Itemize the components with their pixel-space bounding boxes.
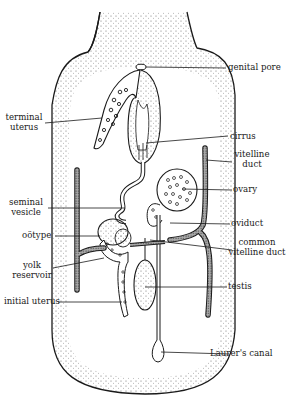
label-yolk-reservoir: yolk reservoir — [10, 261, 54, 280]
label-terminal-uterus: terminal uterus — [2, 113, 46, 132]
label-oviduct: oviduct — [231, 219, 263, 229]
label-vitelline-duct: vitelline duct — [230, 150, 274, 169]
label-cirrus: cirrus — [230, 132, 256, 142]
ovary — [157, 169, 197, 211]
label-common-vitelline-duct-line2: vitelline duct — [226, 248, 288, 258]
label-ovary: ovary — [233, 185, 257, 195]
label-terminal-uterus-line2: uterus — [2, 123, 46, 133]
label-vitelline-duct-line2: duct — [230, 160, 274, 170]
label-seminal-vesicle-line2: vesicle — [4, 208, 48, 218]
label-common-vitelline-duct: common vitelline duct — [226, 238, 288, 257]
label-initial-uterus: initial uterus — [4, 297, 60, 307]
label-genital-pore: genital pore — [228, 63, 281, 73]
label-seminal-vesicle: seminal vesicle — [4, 198, 48, 217]
trematode-diagram: genital pore terminal uterus cirrus vite… — [0, 0, 291, 409]
label-ootype: oötype — [22, 231, 51, 241]
label-yolk-reservoir-line2: reservoir — [10, 271, 54, 281]
label-laurers-canal: Laurer's canal — [210, 349, 273, 359]
label-testis: testis — [228, 282, 252, 292]
